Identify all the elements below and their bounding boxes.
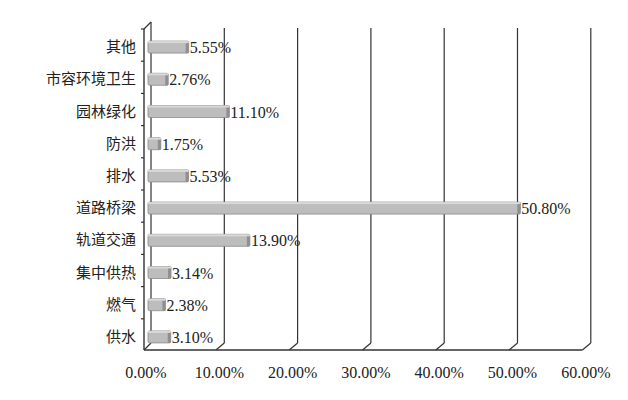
- x-tick-label: 60.00%: [561, 364, 610, 381]
- value-label: 3.10%: [172, 329, 213, 346]
- value-label: 11.10%: [230, 104, 279, 121]
- category-label: 轨道交通: [76, 231, 136, 249]
- category-label: 排水: [106, 167, 136, 185]
- value-label: 3.14%: [172, 265, 213, 282]
- value-label: 2.76%: [169, 71, 210, 88]
- x-tick-label: 0.00%: [125, 364, 166, 381]
- category-label: 道路桥梁: [76, 199, 136, 217]
- value-labels: 5.55%2.76%11.10%1.75%5.53%50.80%13.90%3.…: [162, 39, 571, 346]
- category-label: 防洪: [106, 135, 136, 153]
- x-tick-label: 10.00%: [195, 364, 244, 381]
- category-label: 集中供热: [76, 264, 136, 282]
- category-label: 其他: [106, 38, 136, 56]
- value-label: 13.90%: [251, 232, 300, 249]
- x-tick-label: 40.00%: [415, 364, 464, 381]
- x-tick-labels: 0.00%10.00%20.00%30.00%40.00%50.00%60.00…: [125, 364, 610, 381]
- category-label: 市容环境卫生: [46, 70, 136, 88]
- value-label: 5.55%: [190, 39, 231, 56]
- value-label: 50.80%: [521, 200, 570, 217]
- gridlines: [216, 28, 591, 350]
- x-tick-label: 20.00%: [268, 364, 317, 381]
- x-tick-label: 30.00%: [341, 364, 390, 381]
- value-label: 2.38%: [166, 297, 207, 314]
- category-labels: 其他市容环境卫生园林绿化防洪排水道路桥梁轨道交通集中供热燃气供水: [46, 38, 136, 346]
- value-label: 1.75%: [162, 136, 203, 153]
- x-tick-label: 50.00%: [488, 364, 537, 381]
- value-label: 5.53%: [190, 168, 231, 185]
- bar-chart: 其他市容环境卫生园林绿化防洪排水道路桥梁轨道交通集中供热燃气供水 5.55%2.…: [0, 0, 628, 400]
- category-label: 供水: [106, 328, 136, 346]
- category-label: 燃气: [106, 296, 136, 314]
- category-label: 园林绿化: [76, 103, 136, 121]
